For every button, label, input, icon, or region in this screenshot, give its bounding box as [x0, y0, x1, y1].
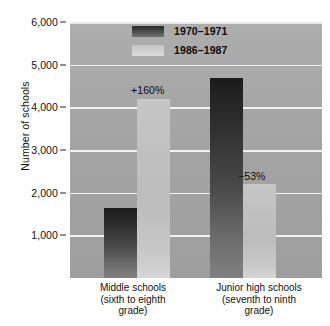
x-axis-label-middle-schools: Middle schools (sixth to eighth grade)	[70, 282, 196, 317]
legend-swatch-icon-1970-1971	[132, 26, 164, 37]
y-tick-label-6000: 6,000	[31, 16, 58, 28]
y-tick-mark-4000	[60, 107, 66, 108]
legend-label-1986-1987: 1986–1987	[174, 44, 227, 56]
plot-area: +160% −53% 1970–1971 1986–1987	[70, 22, 322, 278]
y-tick-label-3000: 3,000	[31, 144, 58, 156]
y-axis-ticks: 6,000 5,000 4,000 3,000 2,000 1,000	[0, 0, 66, 326]
legend-label-1970-1971: 1970–1971	[174, 25, 227, 37]
x-axis-label-junior-high-schools: Junior high schools (seventh to ninth gr…	[196, 282, 322, 317]
gridline-3000	[70, 150, 322, 152]
y-tick-mark-3000	[60, 150, 66, 151]
y-tick-label-5000: 5,000	[31, 59, 58, 71]
gridline-2000	[70, 193, 322, 195]
y-tick-mark-1000	[60, 235, 66, 236]
legend-swatch-icon-1986-1987	[132, 45, 164, 56]
y-tick-label-4000: 4,000	[31, 101, 58, 113]
bar-middle-schools-1970-1971[interactable]	[104, 208, 137, 278]
gridline-6000	[70, 22, 322, 24]
x-label-line-2: (sixth to eighth	[70, 294, 196, 306]
annotation-middle-schools-change: +160%	[131, 84, 165, 96]
bar-chart: Number of schools 6,000 5,000 4,000 3,00…	[0, 0, 330, 326]
bar-middle-schools-1986-1987[interactable]	[137, 99, 170, 278]
y-tick-mark-5000	[60, 64, 66, 65]
y-tick-label-1000: 1,000	[31, 229, 58, 241]
y-tick-mark-6000	[60, 22, 66, 23]
x-label-line-1: Middle schools	[70, 282, 196, 294]
x-label-line-1: Junior high schools	[196, 282, 322, 294]
x-label-line-2: (seventh to ninth	[196, 294, 322, 306]
y-tick-mark-2000	[60, 192, 66, 193]
bar-junior-high-1986-1987[interactable]	[243, 184, 276, 278]
legend: 1970–1971 1986–1987	[132, 25, 227, 56]
x-label-line-3: grade)	[196, 305, 322, 317]
x-axis-labels: Middle schools (sixth to eighth grade) J…	[70, 282, 322, 326]
legend-item-1986-1987[interactable]: 1986–1987	[132, 44, 227, 56]
y-tick-label-2000: 2,000	[31, 187, 58, 199]
annotation-junior-high-change: −53%	[238, 170, 266, 182]
gridline-4000	[70, 107, 322, 109]
legend-item-1970-1971[interactable]: 1970–1971	[132, 25, 227, 37]
gridline-5000	[70, 65, 322, 67]
x-label-line-3: grade)	[70, 305, 196, 317]
